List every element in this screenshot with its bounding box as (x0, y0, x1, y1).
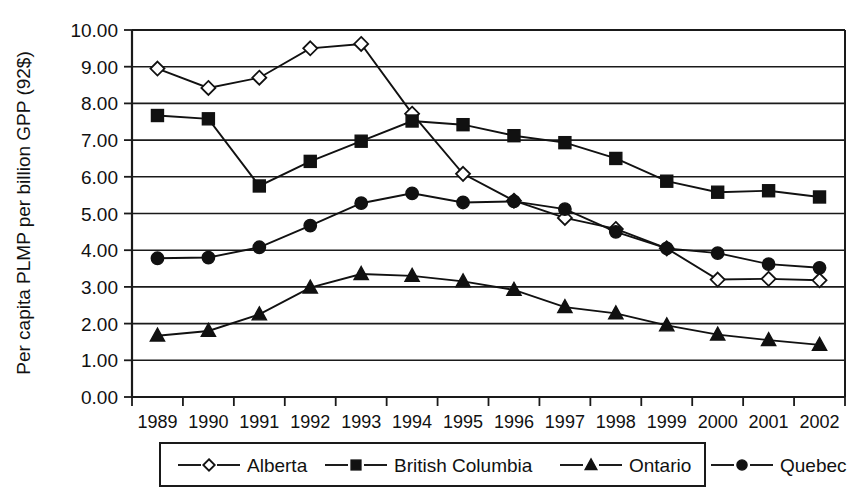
data-point-marker (737, 460, 747, 470)
data-point-marker (304, 219, 316, 231)
data-point-marker (661, 175, 673, 187)
x-tick-label: 1996 (494, 412, 534, 432)
y-tick-label: 3.00 (81, 277, 118, 298)
y-tick-label: 6.00 (81, 167, 118, 188)
x-tick-label: 1998 (596, 412, 636, 432)
x-tick-label: 1999 (647, 412, 687, 432)
y-tick-label: 1.00 (81, 350, 118, 371)
data-point-marker (457, 196, 469, 208)
x-tick-label: 1991 (239, 412, 279, 432)
line-chart: Per capita PLMP per billion GPP (92$) 0.… (0, 0, 865, 495)
data-point-marker (711, 247, 723, 259)
x-tick-label: 1992 (290, 412, 330, 432)
data-point-marker (304, 155, 316, 167)
data-point-marker (355, 197, 367, 209)
data-point-marker (351, 460, 361, 470)
legend-label-alberta: Alberta (247, 455, 308, 476)
data-point-marker (202, 113, 214, 125)
data-point-marker (355, 135, 367, 147)
x-tick-label: 2000 (698, 412, 738, 432)
legend-label-ontario: Ontario (629, 455, 691, 476)
data-point-marker (151, 252, 163, 264)
legend-label-british-columbia: British Columbia (394, 455, 533, 476)
data-point-marker (763, 185, 775, 197)
y-tick-label: 7.00 (81, 130, 118, 151)
data-point-marker (457, 119, 469, 131)
data-point-marker (508, 130, 520, 142)
x-tick-label: 2002 (800, 412, 840, 432)
data-point-marker (762, 258, 774, 270)
data-point-marker (253, 241, 265, 253)
x-tick-label: 2001 (749, 412, 789, 432)
x-tick-label: 1989 (137, 412, 177, 432)
x-tick-label: 1993 (341, 412, 381, 432)
data-point-marker (508, 195, 520, 207)
y-tick-label: 4.00 (81, 240, 118, 261)
data-point-marker (712, 186, 724, 198)
data-point-marker (814, 191, 826, 203)
y-tick-label: 5.00 (81, 204, 118, 225)
data-point-marker (661, 242, 673, 254)
data-point-marker (406, 115, 418, 127)
data-point-marker (253, 180, 265, 192)
svg-text:Per capita PLMP per billion GP: Per capita PLMP per billion GPP (92$) (13, 51, 34, 375)
x-tick-label: 1995 (443, 412, 483, 432)
y-axis-label: Per capita PLMP per billion GPP (92$) (13, 51, 34, 375)
y-tick-label: 9.00 (81, 57, 118, 78)
data-point-marker (610, 226, 622, 238)
data-point-marker (559, 137, 571, 149)
data-point-marker (813, 262, 825, 274)
x-tick-label: 1990 (188, 412, 228, 432)
data-point-marker (559, 203, 571, 215)
legend-label-quebec: Quebec (780, 455, 847, 476)
x-tick-label: 1997 (545, 412, 585, 432)
data-point-marker (151, 110, 163, 122)
y-tick-label: 10.00 (70, 20, 118, 41)
data-point-marker (610, 152, 622, 164)
data-point-marker (202, 251, 214, 263)
data-point-marker (406, 187, 418, 199)
y-tick-label: 0.00 (81, 387, 118, 408)
chart-container: Per capita PLMP per billion GPP (92$) 0.… (0, 0, 865, 495)
x-tick-label: 1994 (392, 412, 432, 432)
y-tick-label: 2.00 (81, 314, 118, 335)
y-tick-label: 8.00 (81, 93, 118, 114)
